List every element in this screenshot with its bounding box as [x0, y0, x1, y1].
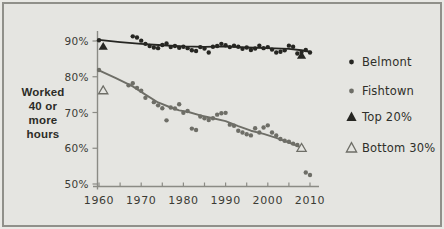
- fishtown-dot-marker: [344, 84, 359, 97]
- legend-item-bottom30: Bottom 30%: [344, 138, 435, 157]
- svg-text:2010: 2010: [295, 194, 325, 207]
- y-axis-title-line: hours: [12, 127, 74, 141]
- svg-text:50%: 50%: [64, 178, 89, 190]
- svg-text:1990: 1990: [210, 194, 240, 207]
- chart-figure: 90%80%70%60%50%196019701980199020002010 …: [0, 0, 444, 229]
- legend-item-top20: Top 20%: [344, 107, 435, 126]
- y-axis-title-line: Worked: [12, 85, 74, 99]
- legend-item-belmont: Belmont: [344, 52, 435, 71]
- y-axis-title-line: more: [12, 113, 74, 127]
- chart-legend: Belmont Fishtown Top 20% Bottom 30%: [344, 52, 435, 157]
- y-axis-title-line: 40 or: [12, 99, 74, 113]
- legend-label-bottom30: Bottom 30%: [362, 141, 435, 155]
- legend-label-fishtown: Fishtown: [362, 84, 414, 98]
- svg-text:1980: 1980: [168, 194, 198, 207]
- svg-text:1970: 1970: [126, 194, 156, 207]
- legend-label-belmont: Belmont: [362, 55, 412, 69]
- svg-text:80%: 80%: [64, 71, 89, 83]
- svg-text:2000: 2000: [253, 194, 283, 207]
- legend-item-fishtown: Fishtown: [344, 81, 435, 100]
- y-axis-title: Worked 40 or more hours: [12, 85, 74, 141]
- svg-text:90%: 90%: [64, 35, 89, 47]
- svg-text:1960: 1960: [84, 194, 114, 207]
- filled-triangle-marker: [344, 110, 359, 123]
- belmont-dot-marker: [344, 55, 359, 68]
- open-triangle-marker: [344, 141, 359, 154]
- svg-text:60%: 60%: [64, 142, 89, 154]
- legend-label-top20: Top 20%: [362, 110, 412, 124]
